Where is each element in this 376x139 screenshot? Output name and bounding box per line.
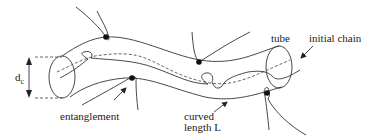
current-chain-curve	[60, 51, 300, 88]
entanglement-dot	[103, 34, 109, 40]
entanglement-dot	[264, 90, 270, 96]
tube-label: tube	[271, 32, 290, 44]
entanglement-label: entanglement	[60, 110, 119, 122]
entanglement-arrow	[114, 88, 126, 100]
diameter-label: dc	[15, 71, 25, 86]
curved-length-arrow	[214, 102, 227, 112]
tube-right-end	[266, 46, 292, 88]
initial-chain-label: initial chain	[309, 32, 362, 44]
initial-chain-arrow	[301, 46, 313, 58]
tube-diameter-indicator: dc	[15, 57, 64, 98]
tube	[49, 37, 292, 99]
tube-model-diagram: dc entanglement curved length L tube ini…	[0, 0, 376, 139]
entanglement-dot	[129, 75, 135, 81]
entanglement-dot	[196, 59, 202, 65]
curved-length-label-line2: length L	[184, 121, 221, 133]
